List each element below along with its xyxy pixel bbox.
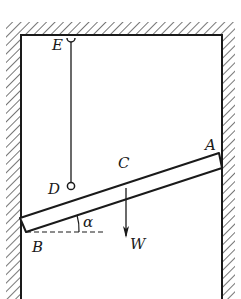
label-E: E [51,36,63,54]
label-A: A [203,136,216,154]
hook-E-icon [67,38,75,42]
label-C: C [118,154,130,172]
angle-alpha-arc [77,215,79,232]
left-wall-hatch [6,35,21,299]
right-wall-hatch [222,35,235,299]
diagram-canvas: E D C A B α W [0,0,241,299]
label-W: W [130,235,147,253]
label-B: B [31,238,43,256]
top-wall-hatch [6,22,235,35]
label-alpha: α [83,213,93,231]
ring-D-icon [67,182,74,189]
label-D: D [47,180,60,198]
